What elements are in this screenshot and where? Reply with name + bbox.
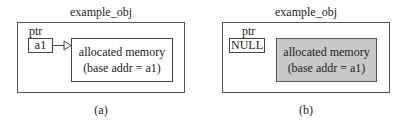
panel-b-memory-line1: allocated memory — [283, 44, 369, 60]
panel-b-ptr-box: NULL — [229, 38, 265, 53]
panel-b-memory-box: allocated memory (base addr = a1) — [276, 38, 377, 82]
panel-a-ptr-value: a1 — [35, 38, 46, 53]
panel-a-memory-box: allocated memory (base addr = a1) — [71, 38, 173, 82]
panel-a-title: example_obj — [17, 5, 185, 20]
panel-a-caption: (a) — [17, 103, 185, 118]
panel-a-ptr-box: a1 — [28, 38, 53, 53]
panel-b-memory-line2: (base addr = a1) — [288, 60, 366, 76]
panel-a-memory-line1: allocated memory — [79, 44, 165, 60]
panel-b-ptr-label: ptr — [242, 24, 255, 39]
panel-a-memory-line2: (base addr = a1) — [83, 60, 161, 76]
panel-b-ptr-value: NULL — [231, 38, 263, 53]
panel-a-ptr-label: ptr — [29, 24, 42, 39]
panel-b-title: example_obj — [222, 5, 390, 20]
panel-b-caption: (b) — [222, 103, 390, 118]
